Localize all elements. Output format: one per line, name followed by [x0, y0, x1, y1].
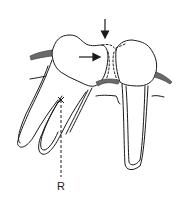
bone-crest-middle [96, 95, 120, 104]
left-tooth-root-mesial-inner [41, 102, 58, 150]
left-tooth-crown [52, 35, 108, 86]
gingiva-left [30, 50, 52, 60]
right-tooth-crown [116, 40, 157, 86]
dental-diagram [0, 0, 183, 199]
rotation-center-label: R [57, 180, 65, 192]
contact-area-dashed [116, 44, 125, 48]
contact-area-dashed [102, 45, 116, 50]
left-tooth-root-mesial-outer [66, 90, 88, 134]
right-tooth-root [122, 84, 148, 170]
left-tooth-root-distal [18, 60, 58, 147]
gingiva-middle [96, 79, 119, 86]
bone-crest-right [152, 96, 164, 97]
gingiva-right [154, 72, 172, 84]
left-tooth-root-mesial-outer2 [70, 88, 92, 132]
horizontal-arrow-head [93, 54, 100, 61]
vertical-arrow-head [102, 31, 109, 38]
